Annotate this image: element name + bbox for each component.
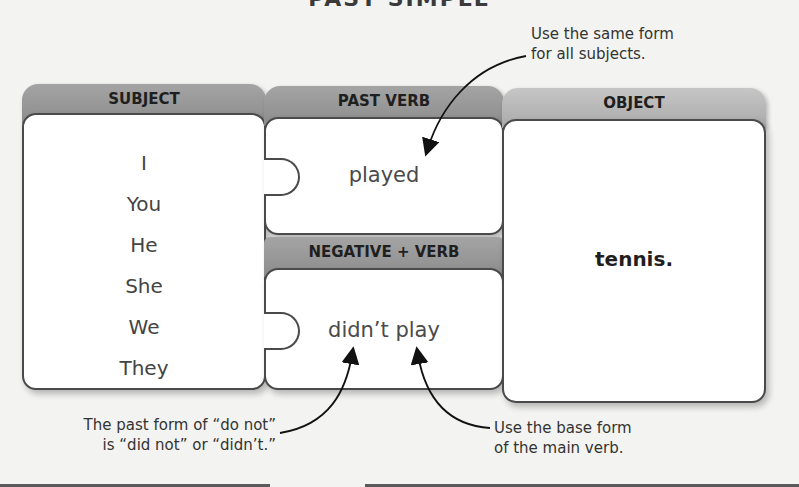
- callout-arrows: [0, 0, 799, 487]
- arrow-icon: [428, 56, 526, 148]
- arrow-icon: [280, 355, 352, 433]
- arrow-icon: [418, 355, 490, 428]
